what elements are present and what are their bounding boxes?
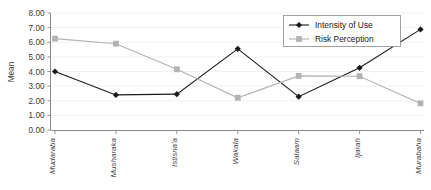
legend-marker (296, 36, 302, 42)
x-category-label: Murabaha (414, 137, 423, 174)
y-tick-label: 5.00 (29, 53, 45, 62)
data-point-marker (52, 36, 58, 42)
y-axis-title: Mean (7, 61, 16, 82)
x-axis-category-labels: MudarabaMusharakaIstisna'aWakalaSalaamIj… (48, 137, 423, 177)
data-point-marker (113, 41, 119, 47)
data-point-marker (113, 92, 119, 98)
data-point-marker (296, 73, 302, 79)
y-tick-label: 3.00 (29, 82, 45, 91)
data-point-marker (417, 26, 423, 32)
data-point-marker (52, 68, 58, 74)
y-tick-label: 2.00 (29, 97, 45, 106)
y-tick-label: 6.00 (29, 38, 45, 47)
y-tick-label: 4.00 (29, 68, 45, 77)
x-category-label: Salaam (292, 138, 301, 165)
x-category-label: Istisna'a (170, 137, 179, 167)
data-point-marker (357, 73, 363, 79)
legend-label: Risk Perception (315, 34, 374, 44)
data-point-marker (235, 95, 241, 101)
chart-canvas: 0.001.002.003.004.005.006.007.008.00 Mud… (0, 0, 431, 190)
x-category-label: Musharaka (109, 137, 118, 177)
y-axis-tick-labels: 0.001.002.003.004.005.006.007.008.00 (29, 9, 45, 135)
data-point-marker (418, 100, 424, 106)
data-point-marker (356, 65, 362, 71)
data-point-marker (174, 66, 180, 72)
y-tick-label: 0.00 (29, 126, 45, 135)
y-tick-label: 1.00 (29, 111, 45, 120)
x-category-label: Mudaraba (48, 137, 57, 174)
legend-label: Intensity of Use (315, 20, 373, 30)
line-chart: 0.001.002.003.004.005.006.007.008.00 Mud… (0, 0, 431, 190)
chart-legend: Intensity of UseRisk Perception (284, 16, 401, 47)
y-tick-label: 8.00 (29, 9, 45, 18)
x-category-label: Ijarah (353, 137, 362, 158)
x-category-label: Wakala (231, 137, 240, 164)
y-tick-label: 7.00 (29, 24, 45, 33)
